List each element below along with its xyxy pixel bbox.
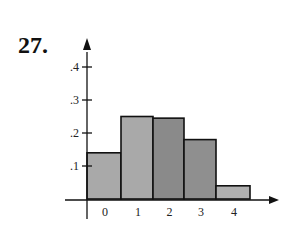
bar-3	[184, 140, 216, 199]
x-axis-arrow-icon	[269, 196, 279, 204]
x-tick-label: 3	[198, 205, 204, 219]
bar-1	[121, 117, 153, 200]
y-tick-label: .2	[70, 126, 79, 140]
y-tick-label: .3	[70, 93, 79, 107]
bar-0	[87, 153, 121, 199]
bar-2	[153, 118, 184, 199]
x-tick-label: 1	[135, 205, 141, 219]
y-axis-arrow-icon	[83, 38, 91, 50]
y-tick-label: .4	[70, 60, 79, 74]
histogram-chart: 01234.1.2.3.4	[0, 0, 297, 237]
bar-4	[216, 186, 250, 199]
y-tick-label: .1	[70, 159, 79, 173]
x-tick-label: 4	[231, 205, 237, 219]
x-tick-label: 0	[102, 205, 108, 219]
x-tick-label: 2	[167, 205, 173, 219]
